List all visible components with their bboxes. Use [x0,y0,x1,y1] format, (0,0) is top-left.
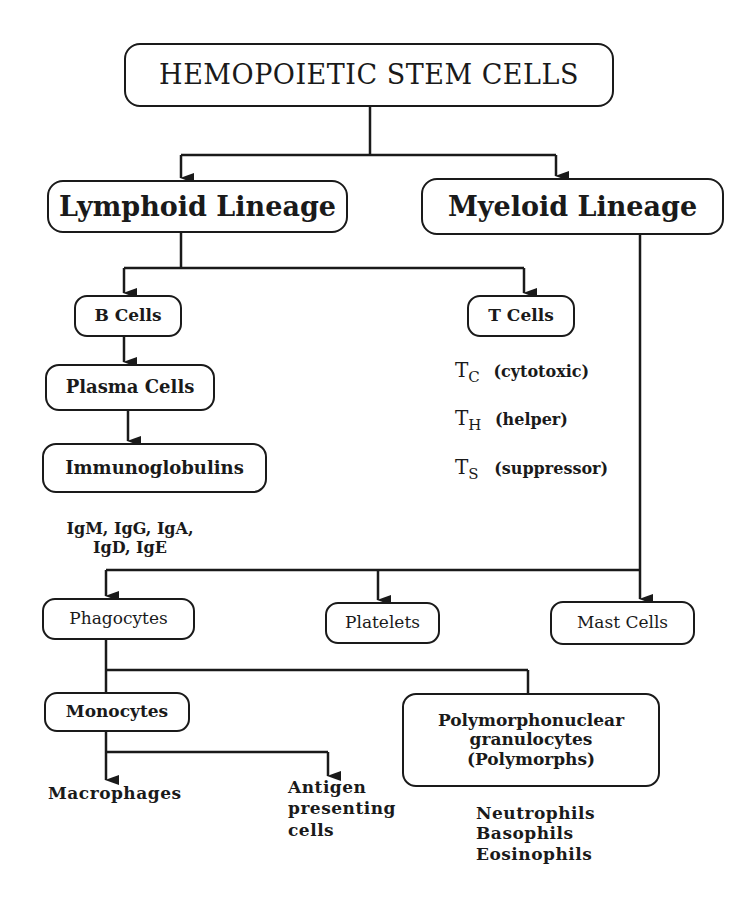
plasma-cells-box: Plasma Cells [45,364,215,411]
lymphoid-lineage-label: Lymphoid Lineage [59,191,336,222]
phagocytes-label: Phagocytes [69,609,167,629]
monocytes-label: Monocytes [66,702,168,722]
mast-cells-label: Mast Cells [577,613,668,633]
polymorphs-line3: (Polymorphs) [467,750,595,770]
immunoglobulins-box: Immunoglobulins [42,443,267,493]
myeloid-lineage-label: Myeloid Lineage [448,191,697,222]
granulocyte-eosinophils: Eosinophils [476,844,595,864]
phagocytes-box: Phagocytes [42,598,195,640]
macrophages-text: Macrophages [48,783,182,803]
polymorphs-line1: Polymorphonuclear [438,711,624,731]
t-subtype-suppressor: TS (suppressor) [455,455,608,483]
immunoglobulins-label: Immunoglobulins [65,458,244,479]
plasma-cells-label: Plasma Cells [66,377,195,398]
ig-types-text: IgM, IgG, IgA, IgD, IgE [50,519,210,557]
ig-types-line2: IgD, IgE [50,538,210,557]
granulocyte-basophils: Basophils [476,823,595,843]
myeloid-lineage-box: Myeloid Lineage [421,178,724,235]
granulocyte-types-list: Neutrophils Basophils Eosinophils [476,803,595,864]
ig-types-line1: IgM, IgG, IgA, [50,519,210,538]
polymorphs-line2: granulocytes [470,730,593,750]
antigen-presenting-cells-text: Antigen presenting cells [288,777,396,841]
hemopoietic-stem-cells-box: HEMOPOIETIC STEM CELLS [124,43,614,107]
t-subtype-cytotoxic: TC (cytotoxic) [455,358,589,386]
polymorphonuclear-box: Polymorphonuclear granulocytes (Polymorp… [402,693,660,787]
hemopoietic-stem-cells-label: HEMOPOIETIC STEM CELLS [159,59,579,90]
platelets-box: Platelets [325,602,440,644]
t-cells-box: T Cells [467,295,575,337]
granulocyte-neutrophils: Neutrophils [476,803,595,823]
t-cells-label: T Cells [488,306,553,326]
platelets-label: Platelets [345,613,420,633]
monocytes-box: Monocytes [44,692,190,732]
t-subtype-helper: TH (helper) [455,406,568,434]
hematopoiesis-diagram: HEMOPOIETIC STEM CELLS Lymphoid Lineage … [0,0,734,909]
mast-cells-box: Mast Cells [550,601,695,645]
lymphoid-lineage-box: Lymphoid Lineage [47,180,348,233]
b-cells-label: B Cells [94,306,161,326]
b-cells-box: B Cells [74,295,182,337]
